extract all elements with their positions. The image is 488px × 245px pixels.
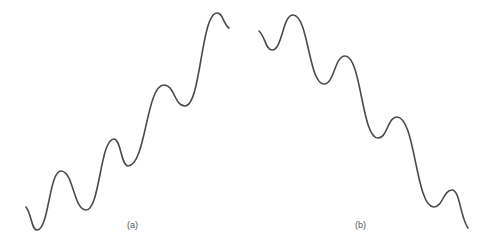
caption-b: (b): [355, 221, 366, 230]
rising-oscillating-curve: [26, 13, 229, 230]
figure-canvas: [0, 0, 488, 245]
falling-oscillating-curve: [259, 15, 468, 228]
caption-a: (a): [127, 221, 138, 230]
